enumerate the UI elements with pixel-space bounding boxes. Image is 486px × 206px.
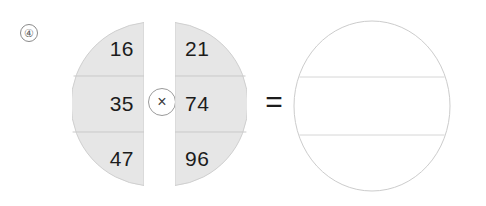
right-operand-cell-middle: 74 [175,76,247,132]
left-operand-cell-middle: 35 [72,76,144,132]
answer-circle-shape [293,20,451,192]
right-operand-half-disc: 21 74 96 [175,22,247,186]
multiply-operator-icon: × [148,88,176,116]
left-operand-value-0: 16 [110,37,134,61]
left-operand-value-1: 35 [110,92,134,116]
right-operand-cell-top: 21 [175,22,247,76]
equals-operator-icon: = [258,86,290,118]
answer-circle-outline [294,21,450,191]
right-operand-value-2: 96 [185,147,209,171]
multiply-symbol: × [157,94,166,110]
left-operand-cell-bottom: 47 [72,132,144,186]
answer-circle-region[interactable] [293,20,451,192]
problem-number-marker: ④ [20,24,38,42]
left-operand-cell-top: 16 [72,22,144,76]
worksheet-problem-canvas: ④ 16 35 47 × 21 [0,0,486,206]
right-operand-value-1: 74 [185,92,209,116]
left-operand-half-disc: 16 35 47 [72,22,144,186]
right-operand-cell-bottom: 96 [175,132,247,186]
problem-number-label: ④ [24,28,34,39]
equals-symbol: = [265,87,283,117]
right-operand-value-0: 21 [185,37,209,61]
left-operand-value-2: 47 [110,147,134,171]
